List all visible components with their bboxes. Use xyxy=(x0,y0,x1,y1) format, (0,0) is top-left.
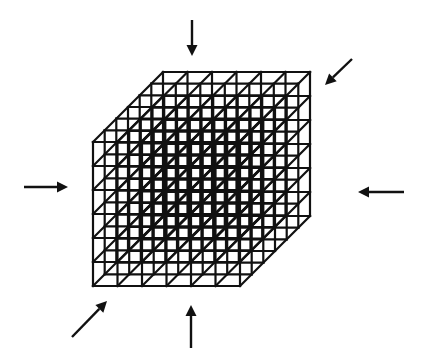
arrow-right-icon xyxy=(358,187,404,198)
cubic-lattice xyxy=(93,72,310,286)
compression-diagram xyxy=(0,0,422,362)
arrow-top-right-icon xyxy=(325,59,352,85)
arrow-bottom-left-icon xyxy=(72,301,107,337)
diagram-canvas xyxy=(0,0,422,362)
arrow-top-icon xyxy=(187,20,198,56)
arrow-left-icon xyxy=(24,182,68,193)
arrow-bottom-icon xyxy=(186,305,197,348)
